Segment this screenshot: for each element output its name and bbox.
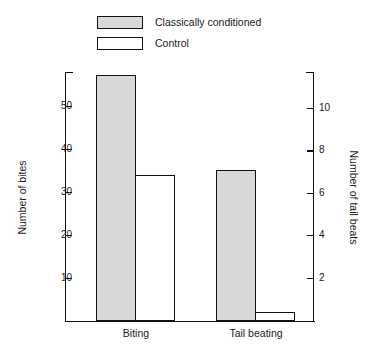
right-ticklabel-6: 6	[319, 188, 325, 198]
right-axis-cap	[306, 72, 314, 73]
right-ticklabel-2: 2	[319, 273, 325, 283]
category-label-biting: Biting	[66, 327, 206, 339]
plot-area: 10 20 30 40 50 2 4 6 8 10 Biting Tail be…	[0, 0, 374, 356]
right-tick-10	[307, 108, 314, 109]
right-axis-title: Number of tail beats	[348, 128, 359, 268]
right-tick-4	[307, 235, 314, 236]
right-axis-line	[313, 72, 314, 322]
left-ticklabel-20: 20	[61, 230, 72, 240]
left-ticklabel-40: 40	[61, 144, 72, 154]
left-ticklabel-30: 30	[61, 187, 72, 197]
bar-biting-control	[135, 175, 175, 321]
right-tick-6	[307, 193, 314, 194]
category-label-tail-beating: Tail beating	[186, 327, 326, 339]
left-ticklabel-10: 10	[61, 273, 72, 283]
right-tick-2	[307, 278, 314, 279]
left-axis-cap	[65, 72, 73, 73]
left-ticklabel-50: 50	[61, 101, 72, 111]
bar-tailbeating-control	[255, 312, 295, 322]
bar-biting-conditioned	[96, 75, 136, 321]
right-ticklabel-8: 8	[319, 145, 325, 155]
bar-chart-figure: Classically conditioned Control 10 20 30…	[0, 0, 374, 356]
right-ticklabel-4: 4	[319, 230, 325, 240]
right-ticklabel-10: 10	[319, 103, 330, 113]
bar-tailbeating-conditioned	[216, 170, 256, 322]
right-tick-8	[307, 150, 314, 151]
left-axis-title: Number of bites	[17, 128, 28, 268]
